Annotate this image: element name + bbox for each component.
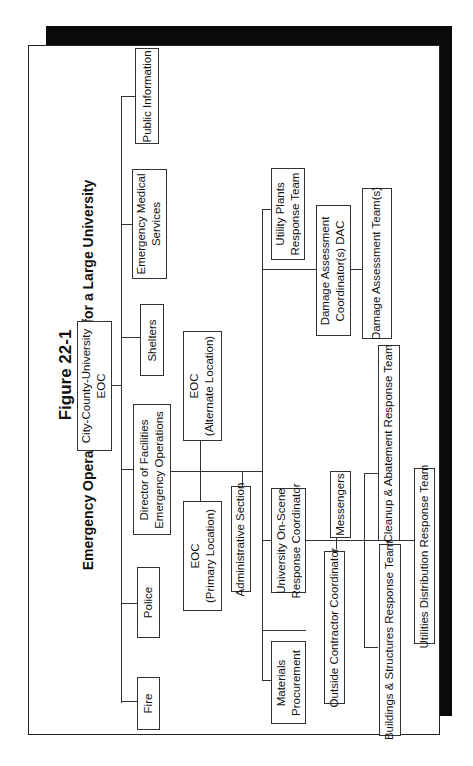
box-administrative-section: Administrative Section [231,486,251,592]
box-damage-assessment-coordinator: Damage AssessmentCoordinator(s) DAC [316,205,351,336]
connector [121,224,132,225]
connector [121,701,137,702]
box-damage-assessment-teams: Damage Assessment Team(s) [362,188,392,339]
connector [350,269,362,270]
box-emergency-medical-services: Emergency MedicalServices [132,169,167,279]
connector [364,473,378,474]
box-on-scene-coordinator: University On-SceneResponse Coordinator [271,488,306,593]
facility-trunk [262,209,263,681]
box-eoc-primary: EOC(Primary Location) [183,501,222,611]
running-header [305,0,445,8]
connector [262,630,306,631]
figure-number: Figure 22-1 [54,180,78,571]
box-outside-contractor: Outside Contractor Coordinator [324,551,345,704]
box-cleanup-abatement: Cleanup & Abatement Response Team [378,345,400,541]
connector [262,269,316,270]
trunk-line [121,96,122,703]
box-messengers: Messengers [330,471,351,538]
box-public-information: Public Information [135,48,159,144]
connector [364,647,378,648]
box-buildings-structures: Buildings & Structures Response Team [379,544,401,736]
connector [364,473,365,648]
box-police: Police [137,567,160,638]
box-fire: Fire [137,677,160,730]
box-eoc-alternate: EOC(Alternate Location) [183,331,222,441]
box-utility-plants: Utility PlantsResponse Team [271,168,305,260]
connector [121,469,133,470]
box-materials-procurement: MaterialsProcurement [271,641,306,724]
connector [121,96,136,97]
box-shelters: Shelters [140,304,164,376]
box-utilities-distribution: Utilities Distribution Response Team [414,468,435,644]
connector [112,385,122,386]
connector [170,471,262,472]
connector [121,337,140,338]
box-director-of-facilities: Director of FacilitiesEmergency Operatio… [133,404,171,535]
box-city-eoc: City-County-UniversityEOC [77,321,112,451]
connector [121,603,137,604]
